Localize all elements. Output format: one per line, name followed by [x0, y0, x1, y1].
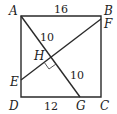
- geometry-diagram: A B F E H D G C 16 10 10 12: [0, 0, 117, 114]
- label-e: E: [9, 75, 19, 89]
- label-d: D: [8, 99, 19, 113]
- label-f: F: [103, 17, 113, 31]
- measure-ah: 10: [40, 31, 54, 44]
- label-h: H: [33, 49, 45, 63]
- label-b: B: [103, 4, 113, 18]
- label-a: A: [8, 4, 18, 18]
- measure-hg: 10: [70, 69, 84, 82]
- right-angle-marker: [44, 62, 56, 69]
- segment-ag: [21, 16, 80, 97]
- label-g: G: [76, 99, 86, 113]
- label-c: C: [100, 99, 109, 113]
- measure-ab: 16: [54, 3, 68, 16]
- measure-dg: 12: [44, 100, 58, 113]
